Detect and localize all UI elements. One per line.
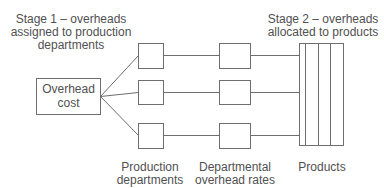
production-departments-label: Production departments	[110, 161, 190, 187]
department-rate-box-1	[220, 44, 251, 69]
connector-overhead-to-dept-2	[101, 93, 139, 97]
overhead-cost-label: Overhead cost	[36, 82, 101, 110]
departmental-rates-label-line-2: overhead rates	[190, 174, 280, 187]
products-label-text: Products	[290, 161, 354, 174]
connector-overhead-to-dept-3	[101, 97, 139, 136]
products-label: Products	[290, 161, 354, 174]
stage1-label-line-3: departments	[6, 39, 136, 52]
overhead-cost-label-line-2: cost	[36, 96, 101, 110]
department-rate-box-2	[220, 81, 251, 105]
connector-overhead-to-dept-1	[101, 56, 139, 97]
stage2-label-line-2: allocated to products	[263, 26, 383, 39]
production-departments-label-line-2: departments	[110, 174, 190, 187]
stage1-label: Stage 1 – overheads assigned to producti…	[6, 13, 136, 52]
products-box	[300, 44, 344, 146]
stage2-label: Stage 2 – overheads allocated to product…	[263, 13, 383, 39]
department-rate-box-3	[220, 124, 251, 149]
production-department-box-3	[139, 124, 164, 149]
departmental-rates-label: Departmental overhead rates	[190, 161, 280, 187]
production-department-box-1	[139, 44, 164, 69]
production-department-box-2	[139, 81, 164, 105]
overhead-cost-label-line-1: Overhead	[36, 82, 101, 96]
